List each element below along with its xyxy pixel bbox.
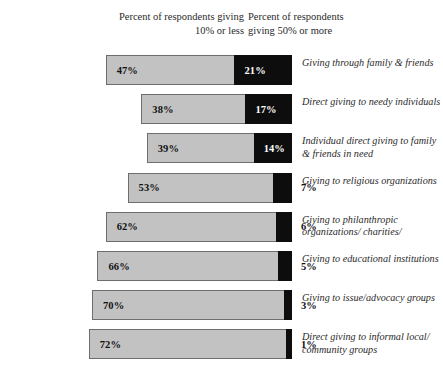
bar-value-high-givers: 21%: [235, 65, 265, 76]
bar-segment-low-givers[interactable]: 53%: [128, 173, 273, 203]
stacked-bar[interactable]: 47%21%: [106, 55, 292, 85]
bar-segment-high-givers[interactable]: [284, 290, 292, 320]
bar-segment-high-givers[interactable]: 14%: [254, 133, 292, 163]
bar-value-low-givers: 38%: [142, 104, 173, 115]
bar-segment-low-givers[interactable]: 72%: [89, 329, 286, 359]
category-label: Giving to religious organizations: [302, 175, 442, 188]
bar-segment-high-givers[interactable]: 17%: [245, 94, 292, 124]
stacked-bar[interactable]: 38%17%: [141, 94, 292, 124]
bar-segment-low-givers[interactable]: 39%: [147, 133, 254, 163]
chart-container: Percent of respondents giving 10% or les…: [0, 0, 443, 378]
category-label: Direct giving to informal local/ communi…: [302, 331, 442, 356]
stacked-bar[interactable]: 70%: [92, 290, 292, 320]
category-label: Giving to issue/advocacy groups: [302, 292, 442, 305]
stacked-bar[interactable]: 72%: [89, 329, 292, 359]
bar-segment-high-givers[interactable]: 21%: [234, 55, 292, 85]
bar-segment-low-givers[interactable]: 47%: [106, 55, 235, 85]
bar-segment-low-givers[interactable]: 62%: [106, 212, 276, 242]
bar-value-low-givers: 62%: [107, 221, 138, 232]
stacked-bar[interactable]: 62%: [106, 212, 292, 242]
category-label: Individual direct giving to family & fri…: [302, 135, 442, 160]
bar-segment-high-givers[interactable]: [286, 329, 292, 359]
bar-segment-high-givers[interactable]: [278, 251, 292, 281]
bar-segment-low-givers[interactable]: 38%: [141, 94, 245, 124]
category-label: Direct giving to needy individuals: [302, 96, 442, 109]
bar-value-high-givers: 14%: [255, 143, 285, 154]
bar-value-high-givers: 17%: [246, 104, 276, 115]
bar-value-low-givers: 70%: [93, 300, 124, 311]
bar-value-low-givers: 72%: [90, 339, 121, 350]
bar-value-low-givers: 53%: [129, 182, 160, 193]
bar-segment-low-givers[interactable]: 66%: [97, 251, 278, 281]
stacked-bar[interactable]: 66%: [97, 251, 292, 281]
stacked-bar[interactable]: 39%14%: [147, 133, 292, 163]
bar-value-low-givers: 47%: [107, 65, 138, 76]
category-label: Giving through family & friends: [302, 57, 442, 70]
bar-segment-high-givers[interactable]: [276, 212, 292, 242]
stacked-bar[interactable]: 53%: [128, 173, 292, 203]
bar-segment-low-givers[interactable]: 70%: [92, 290, 284, 320]
plot-area: 47%21%Giving through family & friends38%…: [0, 0, 443, 378]
bar-segment-high-givers[interactable]: [273, 173, 292, 203]
bar-value-low-givers: 39%: [148, 143, 179, 154]
bar-value-low-givers: 66%: [98, 261, 129, 272]
category-label: Giving to educational institutions: [302, 253, 442, 266]
category-label: Giving to philanthropic organizations/ c…: [302, 214, 442, 239]
